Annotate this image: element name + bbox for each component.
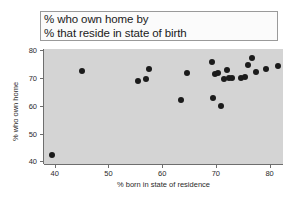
x-axis-tick xyxy=(55,165,56,168)
data-point xyxy=(209,59,215,65)
chart-title-box: % who own home by % that reside in state… xyxy=(40,11,278,41)
y-axis-tick-label: 40 xyxy=(21,157,37,166)
y-axis-tick-label: 50 xyxy=(21,129,37,138)
data-point xyxy=(249,55,255,61)
x-axis-tick-label: 80 xyxy=(260,169,280,178)
data-point xyxy=(146,66,152,72)
data-point xyxy=(184,70,190,76)
data-point xyxy=(178,97,184,103)
x-axis-tick xyxy=(108,165,109,168)
data-point xyxy=(229,75,235,81)
y-axis-tick-label: 80 xyxy=(21,46,37,55)
x-axis-title: % born in state of residence xyxy=(44,180,283,189)
y-axis-tick xyxy=(40,106,43,107)
y-axis-tick xyxy=(40,161,43,162)
data-point xyxy=(224,67,230,73)
x-axis-line xyxy=(44,164,283,165)
y-axis-tick xyxy=(40,78,43,79)
data-point xyxy=(210,95,216,101)
x-axis-tick xyxy=(162,165,163,168)
data-point xyxy=(79,68,85,74)
chart-title-line-2: % that reside in state of birth xyxy=(44,27,277,41)
x-axis-tick xyxy=(216,165,217,168)
y-axis-tick xyxy=(40,50,43,51)
plot-area xyxy=(44,49,283,164)
data-point xyxy=(275,63,281,69)
chart-title-line-1: % who own home by xyxy=(44,13,277,27)
y-axis-title: % who own home xyxy=(11,67,20,157)
y-axis-line xyxy=(43,49,44,164)
x-axis-tick xyxy=(270,165,271,168)
x-axis-tick-label: 70 xyxy=(206,169,226,178)
data-point xyxy=(245,62,251,68)
y-axis-tick-label: 60 xyxy=(21,101,37,110)
data-point xyxy=(263,66,269,72)
x-axis-tick-label: 60 xyxy=(152,169,172,178)
y-axis-tick-label: 70 xyxy=(21,74,37,83)
x-axis-tick-label: 40 xyxy=(45,169,65,178)
data-point xyxy=(253,69,259,75)
x-axis-tick-label: 50 xyxy=(98,169,118,178)
data-point xyxy=(143,76,149,82)
data-point xyxy=(49,152,55,158)
scatter-plot-figure: % who own home by % that reside in state… xyxy=(0,0,295,197)
data-point xyxy=(135,78,141,84)
data-point xyxy=(242,74,248,80)
data-point xyxy=(215,70,221,76)
data-point xyxy=(218,103,224,109)
y-axis-tick xyxy=(40,134,43,135)
